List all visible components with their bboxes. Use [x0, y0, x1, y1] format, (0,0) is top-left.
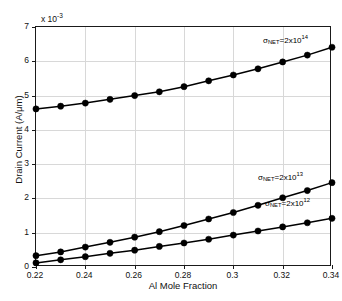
x-tick-label: 0.3 — [212, 271, 252, 280]
series-marker — [181, 84, 187, 90]
x-axis-tick — [332, 265, 333, 269]
series-marker — [230, 209, 236, 215]
series-marker — [181, 240, 187, 246]
series-marker — [132, 247, 138, 253]
plot-area — [35, 26, 331, 266]
series-marker — [255, 202, 261, 208]
x-tick-label: 0.22 — [15, 271, 55, 280]
y-tick-label: 5 — [5, 91, 29, 100]
x-axis-title: Al Mole Fraction — [35, 280, 331, 291]
annot-bottom: σNET=2x1012 — [265, 198, 310, 208]
series-marker — [132, 234, 138, 240]
sigma-exponent: 14 — [302, 34, 308, 40]
y-axis-exponent-power: -3 — [57, 12, 63, 19]
series-marker — [107, 250, 113, 256]
series-marker — [156, 229, 162, 235]
sigma-subscript: NET — [263, 176, 275, 182]
y-tick-label: 3 — [5, 159, 29, 168]
series-marker — [206, 216, 212, 222]
y-tick-label: 1 — [5, 228, 29, 237]
y-tick-label: 0 — [5, 262, 29, 271]
sigma-value: =2x10 — [282, 199, 304, 208]
series-marker — [230, 232, 236, 238]
series-marker — [329, 180, 335, 186]
series-marker — [33, 106, 39, 112]
y-axis-exponent-label: x 10-3 — [41, 12, 63, 24]
series-marker — [280, 224, 286, 230]
series-marker — [58, 257, 64, 263]
sigma-value: =2x10 — [275, 173, 297, 182]
x-tick-label: 0.26 — [114, 271, 154, 280]
sigma-subscript: NET — [270, 202, 282, 208]
series-marker — [82, 254, 88, 260]
y-tick-label: 6 — [5, 56, 29, 65]
x-tick-label: 0.32 — [262, 271, 302, 280]
x-tick-label: 0.28 — [163, 271, 203, 280]
series-marker — [156, 89, 162, 95]
sigma-value: =2x10 — [280, 36, 302, 45]
series-line — [36, 47, 332, 109]
x-tick-label: 0.24 — [64, 271, 104, 280]
series-marker — [230, 72, 236, 78]
sigma-exponent: 12 — [304, 197, 310, 203]
sigma-subscript: NET — [268, 39, 280, 45]
sigma-exponent: 13 — [297, 171, 303, 177]
series-marker — [329, 44, 335, 50]
series-marker — [33, 253, 39, 259]
series-marker — [255, 66, 261, 72]
series-marker — [280, 59, 286, 65]
series-marker — [58, 249, 64, 255]
y-tick-label: 2 — [5, 193, 29, 202]
series-marker — [82, 100, 88, 106]
series-marker — [82, 244, 88, 250]
y-axis-exponent-mantissa: x 10 — [41, 14, 57, 24]
series-marker — [58, 103, 64, 109]
series-layer — [36, 27, 332, 267]
series-marker — [181, 222, 187, 228]
series-marker — [329, 215, 335, 221]
series-marker — [255, 228, 261, 234]
figure-canvas: x 10-3 Drain Current (A/μm) Al Mole Frac… — [0, 0, 342, 301]
series-marker — [107, 96, 113, 102]
annot-middle: σNET=2x1013 — [258, 172, 303, 182]
series-marker — [304, 52, 310, 58]
series-marker — [107, 239, 113, 245]
series-marker — [132, 92, 138, 98]
series-marker — [33, 260, 39, 266]
series-marker — [206, 78, 212, 84]
annot-top: σNET=2x1014 — [263, 35, 308, 45]
y-tick-label: 4 — [5, 125, 29, 134]
series-marker — [206, 236, 212, 242]
series-marker — [304, 187, 310, 193]
series-marker — [304, 220, 310, 226]
y-tick-label: 7 — [5, 22, 29, 31]
x-tick-label: 0.34 — [311, 271, 342, 280]
series-marker — [156, 243, 162, 249]
